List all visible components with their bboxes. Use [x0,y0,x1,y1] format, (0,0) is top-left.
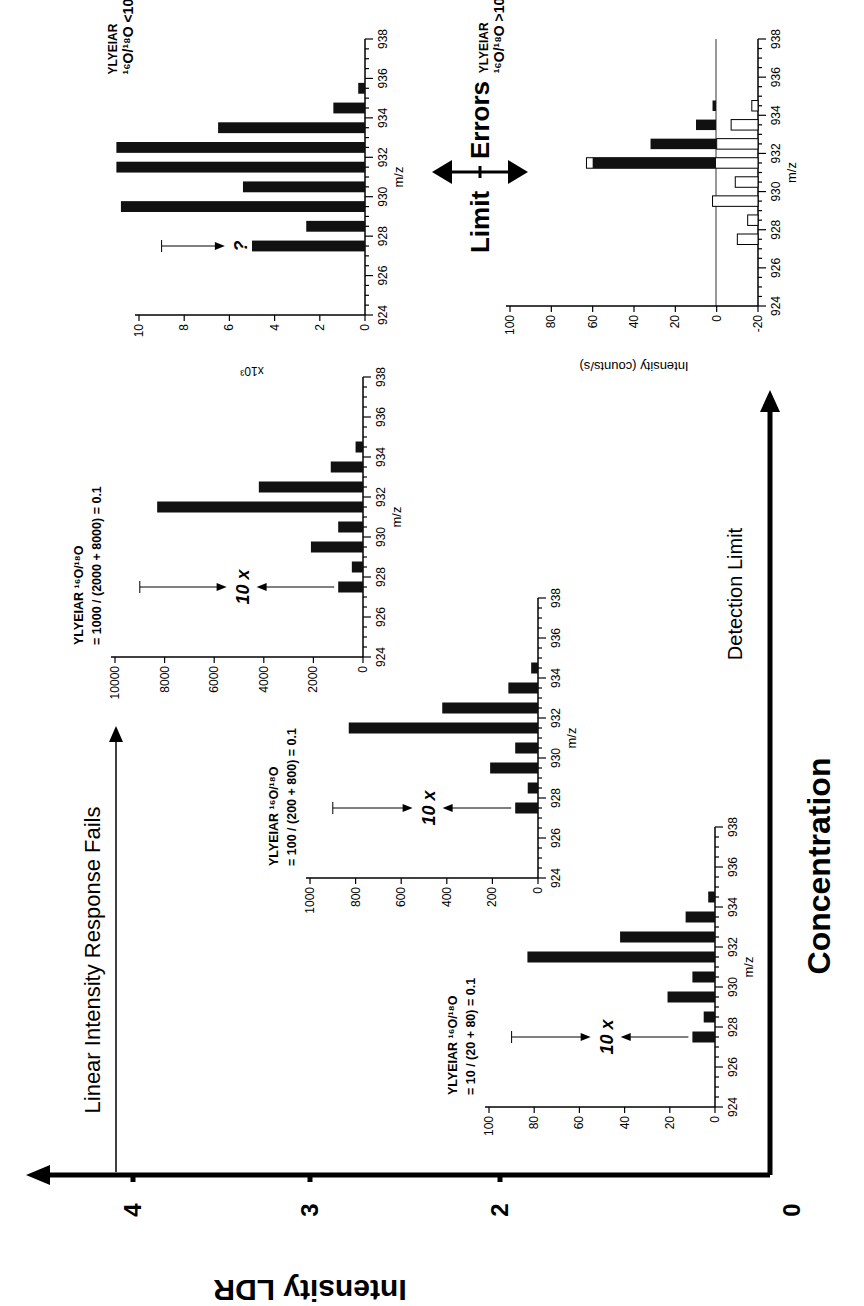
y-tick-4: 4 [119,1203,146,1217]
filled-bar [696,120,716,130]
bar [704,1012,715,1023]
bar [490,763,538,774]
x-tick-label: 938 [374,367,388,387]
bar [331,462,363,473]
y-tick-label: 6 [222,324,236,331]
ten-x-label: 10 x [233,569,253,605]
filled-bar [651,139,716,149]
x-tick-label: 932 [726,937,740,957]
x-tick-label: 928 [376,226,390,246]
bar [352,562,363,573]
spectrum-panel-c: 924926928930932934936938m/z0200040006000… [72,367,404,700]
peptide-label: YLYEIAR [477,22,491,73]
y-tick-label: 0 [358,324,372,331]
bar [531,663,538,674]
x-tick-label: 924 [549,868,563,888]
filled-bar [593,158,716,168]
x-tick-label: 926 [376,265,390,285]
y-tick-label: 20 [663,1116,677,1130]
y-tick-label: 2000 [306,666,320,693]
question-mark: ? [231,241,251,252]
y-tick-label: 60 [586,315,600,329]
y-axis-label: Intensity LDR [213,1274,407,1306]
x-tick-label: 930 [726,977,740,997]
x-tick-label: 934 [549,668,563,688]
ratio-label: ¹⁶O/¹⁸O >10 [491,0,507,73]
y-tick-label: 800 [349,887,363,907]
x-tick-label: 926 [726,1057,740,1077]
y-tick-label: 2 [313,324,327,331]
open-bar [717,139,758,149]
x-tick-label: 936 [769,67,783,87]
x-axis-label: Concentration [801,758,837,975]
y-tick-label: 0 [531,887,545,894]
peptide-ratio-label: YLYEIAR ¹⁶O/¹⁸O [72,545,86,645]
y-tick-label: 20 [668,315,682,329]
x-tick-label: 936 [549,628,563,648]
ten-x-label: 10 x [597,1019,617,1055]
y-tick-3: 3 [296,1203,323,1216]
x-tick-label: 930 [374,527,388,547]
x-axis-label: m/z [389,507,404,528]
bar [620,932,715,943]
x-tick-label: 924 [769,296,783,316]
y-axis-label: Intensity (counts/s) [579,359,688,374]
bar [668,992,715,1003]
y-tick-label: 80 [527,1116,541,1130]
y-tick-label: 400 [440,887,454,907]
figure: 4 3 2 0 Intensity LDR Concentration Line… [0,0,864,1306]
y-tick-label: 4 [268,324,282,331]
intensity-ldr-arrow-icon [26,1165,50,1185]
x-tick-label: 938 [376,29,390,49]
x-tick-label: 932 [769,143,783,163]
x-tick-label: 930 [376,186,390,206]
x-tick-label: 930 [769,181,783,201]
linear-response-arrow-icon [109,726,123,742]
bar [259,482,363,493]
bar [338,522,363,533]
x-tick-label: 934 [769,105,783,125]
figure-canvas: 4 3 2 0 Intensity LDR Concentration Line… [0,0,864,1306]
x-axis-label: m/z [784,162,799,183]
bar [692,972,715,983]
x-tick-label: 928 [549,788,563,808]
x-axis-label: m/z [741,957,756,978]
x-tick-label: 938 [549,588,563,608]
peptide-label: YLYEIAR [106,23,120,74]
bar [692,1032,715,1043]
x-tick-label: 934 [726,897,740,917]
bar [528,783,538,794]
bar [252,241,365,252]
y-tick-label: 10 [132,324,146,338]
y-tick-label: 100 [482,1116,496,1136]
ratio-formula: = 10 / (20 + 80) = 0.1 [464,978,478,1095]
y-tick-label: 60 [572,1116,586,1130]
bar [527,952,715,963]
x-tick-label: 938 [726,817,740,837]
spectrum-panel-b: 924926928930932934936938m/z0200400600800… [267,588,579,914]
origin-tick-0: 0 [778,1203,805,1216]
bar [515,743,538,754]
x-tick-label: 936 [374,407,388,427]
y-tick-label: 100 [503,315,517,335]
bar [218,122,365,133]
x-tick-label: 936 [376,68,390,88]
linear-response-label: Linear Intensity Response Fails [80,807,105,1114]
limit-label: Limit [465,191,495,253]
bar [121,201,365,212]
ratio-label: ¹⁶O/¹⁸O <10 [120,0,136,74]
y-tick-label: 40 [618,1116,632,1130]
x-axis-label: m/z [564,728,579,749]
x-axis-label: m/z [391,167,406,188]
y-tick-label: 0 [710,315,724,322]
bar [338,582,363,593]
bar [116,162,365,173]
peptide-ratio-label: YLYEIAR ¹⁶O/¹⁸O [267,766,281,866]
x-tick-label: 928 [726,1017,740,1037]
x-tick-label: 924 [374,647,388,667]
y-tick-label: -20 [751,315,765,333]
open-bar [752,101,758,111]
bar [686,912,715,923]
open-bar [737,234,758,244]
bar [157,502,363,513]
